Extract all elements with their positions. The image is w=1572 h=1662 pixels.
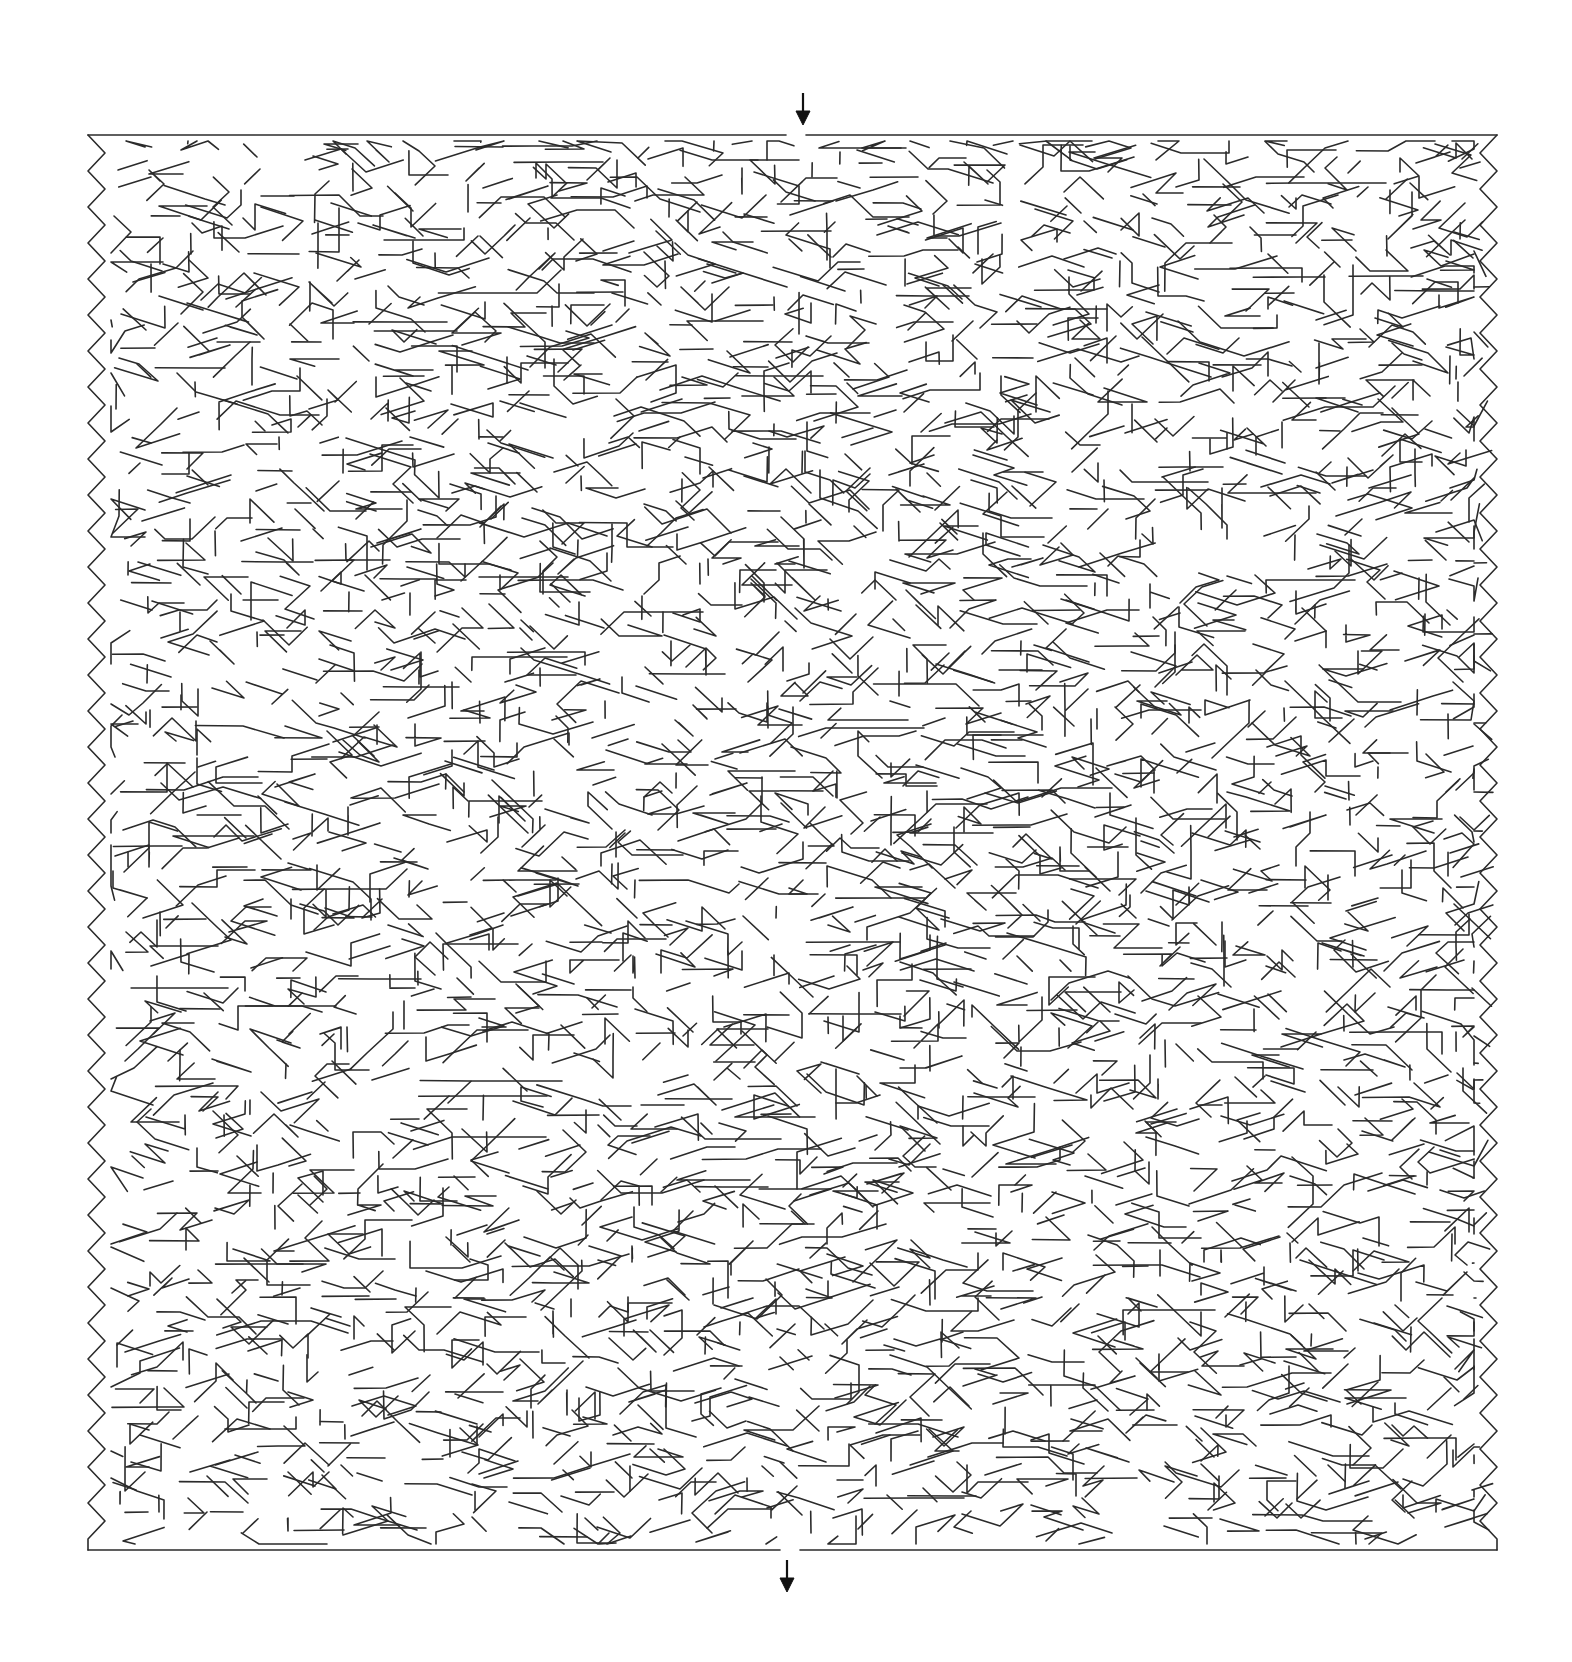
maze-wall <box>682 1117 781 1139</box>
maze-wall <box>1046 629 1089 662</box>
maze-wall <box>1348 329 1374 342</box>
maze-wall <box>1198 774 1217 803</box>
maze-wall <box>718 1343 740 1350</box>
maze-wall <box>1031 1505 1061 1515</box>
maze-wall <box>1308 556 1341 569</box>
maze-wall <box>743 916 768 940</box>
maze-wall <box>565 304 610 326</box>
maze-wall <box>876 774 937 786</box>
maze-wall <box>943 1169 964 1175</box>
maze-wall <box>111 1288 139 1311</box>
maze-wall <box>770 707 793 756</box>
maze-wall <box>724 1368 735 1379</box>
maze-wall <box>369 303 391 324</box>
maze-wall <box>317 481 339 501</box>
maze-wall <box>855 915 875 922</box>
maze-wall <box>198 761 215 767</box>
maze-wall <box>903 373 980 399</box>
maze-wall <box>1161 469 1203 502</box>
maze-wall <box>1115 1014 1156 1024</box>
maze-wall <box>538 995 617 1007</box>
maze-wall <box>1450 844 1479 853</box>
maze-wall <box>1447 1306 1482 1318</box>
maze-wall <box>1186 1426 1202 1441</box>
maze-wall <box>806 844 832 869</box>
entrance-arrow-icon <box>796 93 810 125</box>
maze-wall <box>1290 545 1349 601</box>
maze-wall <box>375 364 433 376</box>
maze-wall <box>1125 1205 1186 1227</box>
maze-wall <box>1253 1515 1372 1521</box>
maze-wall <box>983 492 1019 526</box>
maze-wall <box>658 1084 716 1105</box>
maze-wall <box>417 999 495 1010</box>
maze-wall <box>1248 711 1265 727</box>
maze-wall <box>954 285 997 328</box>
maze-wall <box>1196 338 1239 353</box>
maze-wall <box>658 189 715 220</box>
maze-wall <box>1096 768 1127 797</box>
maze-wall <box>891 1298 978 1311</box>
maze-wall <box>182 684 198 716</box>
maze-wall <box>210 641 234 664</box>
maze-wall <box>1017 956 1032 971</box>
maze-wall <box>616 309 629 322</box>
maze-wall <box>178 260 208 287</box>
maze-wall <box>701 1123 712 1134</box>
maze-wall <box>280 576 314 619</box>
maze-wall <box>644 1278 685 1295</box>
maze-wall <box>664 1310 682 1355</box>
maze-wall <box>743 1204 759 1227</box>
maze-wall <box>386 939 424 959</box>
maze-wall <box>601 840 666 866</box>
maze-wall <box>427 1109 467 1159</box>
maze-wall <box>546 239 583 270</box>
maze-wall <box>749 1397 779 1406</box>
maze-wall <box>454 757 494 770</box>
maze-wall <box>831 413 892 445</box>
maze-wall <box>111 812 117 833</box>
maze-wall <box>319 572 341 591</box>
maze-drawing[interactable] <box>0 0 1572 1662</box>
maze-wall <box>1121 904 1136 918</box>
maze-wall <box>1215 590 1236 610</box>
maze-wall <box>241 1533 327 1544</box>
exit-arrow-icon <box>780 1560 794 1592</box>
maze-wall <box>426 1269 503 1282</box>
maze-wall <box>842 428 873 437</box>
maze-wall <box>521 648 610 684</box>
maze-wall <box>1250 227 1261 252</box>
maze-wall <box>1328 1465 1345 1482</box>
maze-wall <box>1095 633 1149 646</box>
maze-wall <box>1003 1253 1045 1280</box>
maze-wall <box>334 996 356 1014</box>
maze-wall <box>1300 1260 1377 1285</box>
maze-wall <box>1326 1144 1358 1164</box>
maze-wall <box>213 1419 270 1442</box>
maze-wall <box>298 1171 323 1202</box>
maze-wall <box>1426 754 1444 778</box>
maze-wall <box>123 309 146 330</box>
maze-wall <box>319 703 339 716</box>
maze-wall <box>355 610 395 628</box>
maze-wall <box>469 801 542 817</box>
maze-wall <box>1413 282 1458 304</box>
maze-wall <box>1098 379 1147 402</box>
maze-wall <box>1051 971 1130 1000</box>
maze-wall <box>1195 1283 1228 1302</box>
maze-wall <box>1442 1499 1474 1510</box>
maze-wall <box>608 173 636 187</box>
maze-wall <box>436 1514 464 1544</box>
maze-wall <box>470 448 503 473</box>
maze-wall <box>516 832 588 856</box>
maze-wall <box>978 221 996 254</box>
maze-wall <box>640 1159 657 1175</box>
maze-wall <box>910 455 938 471</box>
maze-wall <box>862 490 899 531</box>
maze-wall <box>868 601 910 638</box>
maze-wall <box>500 430 511 441</box>
maze-wall <box>1347 559 1385 599</box>
maze-wall <box>207 1476 228 1496</box>
maze-wall <box>721 1298 753 1308</box>
maze-wall <box>1429 1140 1488 1166</box>
